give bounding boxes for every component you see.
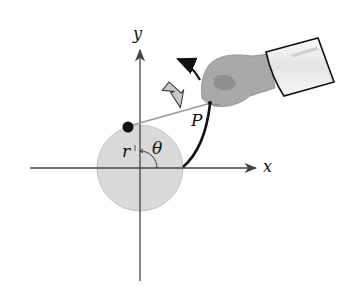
mass-dot	[123, 122, 134, 133]
point-label: P	[190, 110, 203, 130]
angle-label: θ	[152, 138, 162, 158]
sleeve	[266, 38, 334, 96]
x-axis-label: x	[263, 157, 272, 176]
hand-icon	[201, 54, 275, 107]
radius-label: r	[122, 141, 131, 161]
point-p-marker	[208, 101, 212, 105]
y-axis-label: y	[132, 24, 143, 43]
direction-arrow-icon	[160, 77, 190, 111]
rotating-mass-diagram: y x P r θ	[0, 0, 352, 294]
diagram-canvas: y x P r θ	[0, 0, 352, 294]
rotation-arrow-icon	[178, 59, 200, 80]
